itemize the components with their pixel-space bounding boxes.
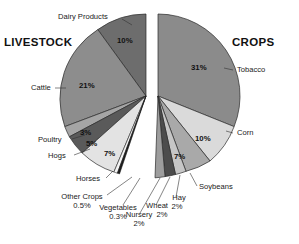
crops-pie	[155, 14, 240, 178]
label-cattle: Cattle	[31, 83, 51, 92]
leader-other-crops	[107, 177, 132, 195]
percent-corn: 10%	[195, 134, 211, 143]
percent-poultry: 3%	[80, 128, 91, 137]
label-other-crops: Other Crops	[56, 192, 108, 201]
percent-hogs: 5%	[86, 139, 97, 148]
percent-soybeans: 7%	[174, 152, 185, 161]
label-dairy-products: Dairy Products	[58, 12, 108, 21]
label-hay: Hay	[168, 193, 190, 202]
leader-horses	[106, 171, 113, 178]
label-tobacco: Tobacco	[237, 65, 265, 74]
label-soybeans: Soybeans	[199, 182, 233, 191]
percent-cattle: 21%	[79, 81, 95, 90]
label-horses: Horses	[76, 174, 100, 183]
label-hogs: Hogs	[48, 151, 66, 160]
percent-vegetables: 0.3%	[95, 212, 141, 221]
percent-other-crops: 0.5%	[56, 201, 108, 210]
percent-horses: 7%	[104, 149, 115, 158]
leader-vegetables	[123, 178, 140, 205]
percent-dairy-products: 10%	[117, 36, 133, 45]
crops-heading: CROPS	[232, 36, 274, 48]
label-corn: Corn	[237, 128, 253, 137]
livestock-pie	[60, 14, 146, 174]
label-wheat: Wheat	[144, 201, 170, 210]
leader-soybeans	[190, 173, 197, 186]
label-poultry: Poultry	[38, 135, 62, 144]
chart-canvas: LIVESTOCK CROPS Dairy Products Cattle Po…	[0, 0, 299, 244]
livestock-heading: LIVESTOCK	[4, 36, 72, 48]
percent-tobacco: 31%	[191, 63, 207, 72]
